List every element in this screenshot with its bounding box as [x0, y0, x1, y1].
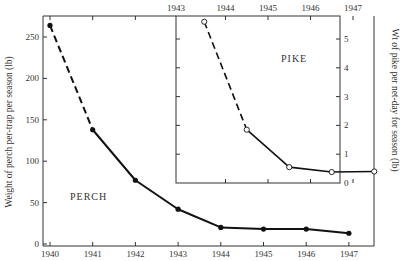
perch-y-tick-label: 50 — [30, 198, 40, 208]
perch-data-point — [90, 127, 95, 132]
perch-data-point — [346, 231, 351, 236]
pike-y-tick-label: 4 — [344, 63, 349, 73]
perch-x-tick-label: 1942 — [126, 249, 144, 259]
pike-y-axis-title: Wt of pike per net-day for season (lb) — [389, 28, 400, 171]
pike-data-point — [372, 169, 377, 174]
pike-x-tick-label: 1946 — [302, 3, 321, 13]
perch-x-tick-label: 1941 — [84, 249, 102, 259]
pike-x-tick-label: 1945 — [259, 3, 278, 13]
perch-x-tick-label: 1944 — [212, 249, 231, 259]
pike-y-tick-label: 1 — [344, 149, 349, 159]
perch-data-point — [47, 23, 52, 28]
perch-y-axis: 050100150200250 — [26, 32, 48, 249]
pike-data-point — [244, 127, 249, 132]
perch-x-tick-label: 1940 — [41, 249, 60, 259]
pike-data-point — [202, 19, 207, 24]
pike-y-tick-label: 2 — [344, 120, 349, 130]
pike-inset-frame — [176, 16, 340, 183]
perch-y-tick-label: 100 — [26, 156, 40, 166]
perch-data-point — [133, 178, 138, 183]
perch-x-tick-label: 1947 — [340, 249, 359, 259]
perch-data-point — [176, 207, 181, 212]
pike-y-tick-label: 5 — [344, 34, 349, 44]
perch-data-point — [218, 225, 223, 230]
perch-y-tick-label: 0 — [35, 239, 40, 249]
pike-x-tick-label: 1944 — [217, 3, 236, 13]
perch-x-tick-label: 1945 — [255, 249, 274, 259]
pike-data-point — [287, 165, 292, 170]
perch-x-tick-label: 1943 — [169, 249, 188, 259]
pike-x-tick-label: 1947 — [344, 3, 363, 13]
perch-data-point — [261, 226, 266, 231]
pike-data-point — [329, 169, 334, 174]
perch-pike-chart: 050100150200250 194019411942194319441945… — [0, 0, 403, 261]
perch-label: PERCH — [70, 191, 107, 202]
perch-y-axis-title: Weight of perch per-trap per season (lb) — [4, 56, 15, 208]
pike-x-tick-label: 1943 — [167, 3, 186, 13]
perch-y-tick-label: 250 — [26, 32, 40, 42]
perch-data-point — [304, 226, 309, 231]
pike-label: PIKE — [281, 53, 307, 64]
perch-y-tick-label: 150 — [26, 115, 40, 125]
perch-y-tick-label: 200 — [26, 73, 40, 83]
perch-x-tick-label: 1946 — [297, 249, 316, 259]
pike-y-tick-label: 3 — [344, 92, 349, 102]
pike-y-tick-label: 0 — [344, 178, 349, 188]
